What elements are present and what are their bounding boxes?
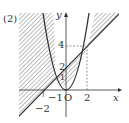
x-axis-label: x (113, 93, 119, 103)
graph-figure: (2) y x 4 2 1 −1 O 2 −2 (0, 0, 129, 123)
origin-label: O (64, 93, 72, 103)
tick-y-1: 1 (60, 74, 65, 82)
problem-label: (2) (3, 14, 17, 24)
tick-x-neg2: −2 (35, 104, 50, 114)
tick-y-2: 2 (59, 62, 65, 72)
y-axis-label: y (56, 10, 62, 20)
tick-x-2: 2 (84, 93, 90, 103)
tick-x-neg1: −1 (48, 93, 63, 103)
tick-y-4: 4 (58, 40, 64, 50)
